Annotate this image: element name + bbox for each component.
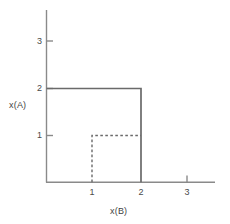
y-tick-label-1: 1 bbox=[28, 131, 42, 140]
x-tick-label-1: 1 bbox=[85, 188, 99, 197]
x-tick-label-2: 2 bbox=[134, 188, 148, 197]
y-tick-label-2: 2 bbox=[28, 84, 42, 93]
y-tick-label-3: 3 bbox=[28, 37, 42, 46]
x-axis-title: x(B) bbox=[110, 207, 127, 216]
chart-plot-area bbox=[0, 0, 230, 224]
chart-figure: 3 2 1 1 2 3 x(A) x(B) bbox=[0, 0, 230, 224]
x-tick-label-3: 3 bbox=[180, 188, 194, 197]
series-dashed-step bbox=[92, 136, 141, 183]
y-axis-title: x(A) bbox=[9, 101, 26, 110]
